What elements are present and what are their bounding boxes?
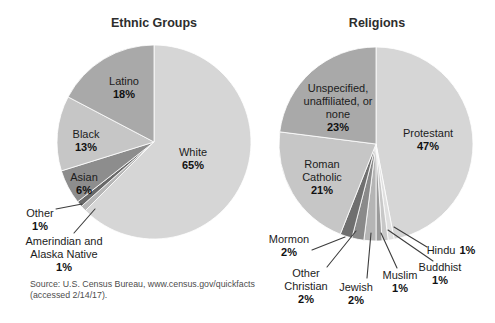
label-hindu: Hindu1% bbox=[427, 244, 476, 257]
label-white-pct: 65% bbox=[179, 159, 207, 172]
label-other-christian-pct: 2% bbox=[273, 292, 339, 305]
leader-line-amerindian bbox=[74, 209, 95, 233]
label-unspecified-pct: 23% bbox=[294, 121, 382, 134]
label-hindu-pct: 1% bbox=[459, 244, 475, 256]
leader-line-other bbox=[56, 204, 82, 209]
label-asian-name: Asian bbox=[70, 171, 98, 184]
label-black-pct: 13% bbox=[73, 141, 100, 154]
label-jewish-pct: 2% bbox=[339, 294, 373, 307]
label-roman-catholic-name: Roman Catholic bbox=[286, 158, 358, 184]
label-white-name: White bbox=[179, 146, 207, 159]
label-jewish-name: Jewish bbox=[339, 281, 373, 294]
label-roman-catholic-pct: 21% bbox=[286, 183, 358, 196]
label-other-christian: Other Christian 2% bbox=[273, 267, 339, 306]
leader-line-mormon bbox=[312, 237, 345, 250]
source-note-line2: (accessed 2/14/17). bbox=[30, 290, 255, 301]
label-black-name: Black bbox=[73, 128, 100, 141]
source-note: Source: U.S. Census Bureau, www.census.g… bbox=[30, 279, 255, 302]
label-mormon-name: Mormon bbox=[269, 233, 309, 246]
label-jewish: Jewish 2% bbox=[339, 281, 373, 307]
label-other: Other 1% bbox=[26, 207, 54, 233]
label-amerindian-name: Amerindian and Alaska Native bbox=[12, 235, 116, 261]
label-other-name: Other bbox=[26, 207, 54, 220]
source-note-line1: Source: U.S. Census Bureau, www.census.g… bbox=[30, 279, 255, 290]
religions-title: Religions bbox=[349, 16, 405, 30]
label-muslim: Muslim 1% bbox=[383, 269, 418, 295]
label-other-christian-name: Other Christian bbox=[273, 267, 339, 293]
label-amerindian-pct: 1% bbox=[12, 260, 116, 273]
label-unspecified-name: Unspecified, unaffiliated, or none bbox=[294, 82, 382, 121]
label-latino-pct: 18% bbox=[109, 88, 139, 101]
label-mormon: Mormon 2% bbox=[269, 233, 309, 259]
ethnic-groups-title: Ethnic Groups bbox=[111, 16, 197, 30]
label-protestant-pct: 47% bbox=[403, 140, 453, 153]
label-muslim-name: Muslim bbox=[383, 269, 418, 282]
label-unspecified: Unspecified, unaffiliated, or none 23% bbox=[294, 82, 382, 134]
label-protestant-name: Protestant bbox=[403, 127, 453, 140]
label-mormon-pct: 2% bbox=[269, 246, 309, 259]
label-latino: Latino 18% bbox=[109, 75, 139, 101]
label-other-pct: 1% bbox=[26, 220, 54, 233]
label-amerindian: Amerindian and Alaska Native 1% bbox=[12, 235, 116, 274]
label-buddhist-pct: 1% bbox=[419, 274, 462, 287]
label-asian: Asian 6% bbox=[70, 171, 98, 197]
label-muslim-pct: 1% bbox=[383, 282, 418, 295]
label-white: White 65% bbox=[179, 146, 207, 172]
label-roman-catholic: Roman Catholic 21% bbox=[286, 158, 358, 197]
label-protestant: Protestant 47% bbox=[403, 127, 453, 153]
label-buddhist-name: Buddhist bbox=[419, 261, 462, 274]
label-latino-name: Latino bbox=[109, 75, 139, 88]
label-buddhist: Buddhist 1% bbox=[419, 261, 462, 287]
label-asian-pct: 6% bbox=[70, 184, 98, 197]
leader-line-other-christian bbox=[327, 231, 356, 267]
label-black: Black 13% bbox=[73, 128, 100, 154]
label-hindu-name: Hindu bbox=[427, 244, 456, 256]
pie-charts-figure: Ethnic Groups Religions White 65% Latino… bbox=[0, 0, 495, 323]
